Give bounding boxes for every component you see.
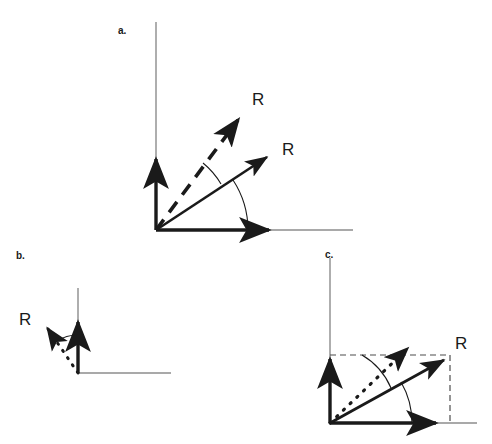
panel-c-resultant-solid-vector xyxy=(330,360,444,423)
panel-a-dashed-vector-label: R xyxy=(252,91,264,108)
vector-diagram-figure: a. b. c. R R R R xyxy=(0,0,492,444)
panel-c-label: c. xyxy=(325,250,333,260)
panel-b-label: b. xyxy=(16,251,25,261)
diagram-canvas xyxy=(0,0,492,444)
panel-b xyxy=(48,288,171,373)
panel-a-solid-vector-label: R xyxy=(282,141,294,158)
panel-c-angle-arc-inner xyxy=(362,355,391,388)
panel-b-dotted-vector-label: R xyxy=(19,311,31,328)
panel-a xyxy=(156,22,353,230)
panel-a-angle-arc-outer xyxy=(233,180,248,230)
panel-b-angle-arc xyxy=(57,335,78,341)
panel-c-angle-arc-outer xyxy=(401,382,412,423)
panel-a-angle-arc-inner xyxy=(203,163,221,184)
panel-c-solid-vector-label: R xyxy=(455,335,467,352)
panel-a-resultant-dashed-vector xyxy=(156,120,238,230)
panel-a-resultant-solid-vector xyxy=(156,157,267,230)
panel-a-label: a. xyxy=(118,26,126,36)
